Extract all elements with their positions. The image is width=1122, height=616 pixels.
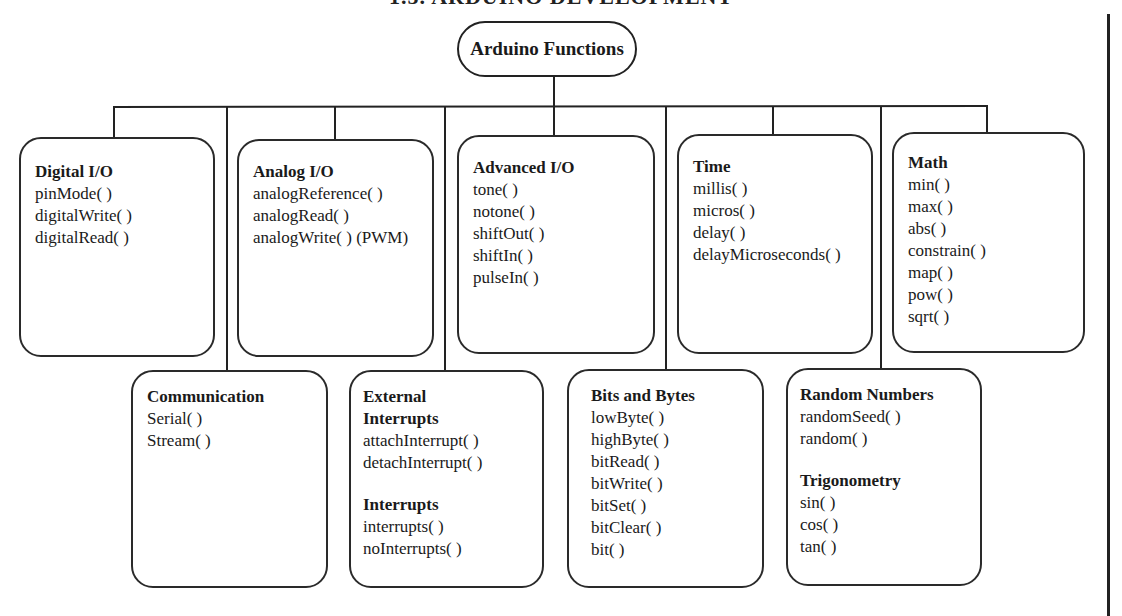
function-item: Serial( ) xyxy=(147,408,326,430)
group-external-interrupts: External Interrupts attachInterrupt( ) d… xyxy=(349,370,544,588)
function-item: tan( ) xyxy=(800,536,980,558)
function-item: detachInterrupt( ) xyxy=(363,452,542,474)
group-title: Bits and Bytes xyxy=(591,385,762,407)
function-item: Stream( ) xyxy=(147,430,326,452)
section-gap xyxy=(800,450,980,470)
function-item: interrupts( ) xyxy=(363,516,542,538)
group-time: Time millis( ) micros( ) delay( ) delayM… xyxy=(677,134,873,354)
function-item: shiftOut( ) xyxy=(473,223,653,245)
function-item: analogReference( ) xyxy=(253,183,432,205)
function-item: min( ) xyxy=(908,174,1083,196)
function-item: digitalWrite( ) xyxy=(35,205,213,227)
section-gap xyxy=(363,474,542,494)
group-title: Math xyxy=(908,152,1083,174)
function-item: millis( ) xyxy=(693,178,871,200)
function-item: sin( ) xyxy=(800,492,980,514)
group-title: Time xyxy=(693,156,871,178)
subgroup-title: Interrupts xyxy=(363,494,542,516)
group-analog-io: Analog I/O analogReference( ) analogRead… xyxy=(237,139,434,357)
function-item: max( ) xyxy=(908,196,1083,218)
group-bits-and-bytes: Bits and Bytes lowByte( ) highByte( ) bi… xyxy=(567,369,764,588)
function-item: shiftIn( ) xyxy=(473,245,653,267)
function-item: abs( ) xyxy=(908,218,1083,240)
function-item: bit( ) xyxy=(591,539,762,561)
function-item: lowByte( ) xyxy=(591,407,762,429)
function-item: highByte( ) xyxy=(591,429,762,451)
function-item: digitalRead( ) xyxy=(35,227,213,249)
function-item: notone( ) xyxy=(473,201,653,223)
function-item: sqrt( ) xyxy=(908,306,1083,328)
function-item: pulseIn( ) xyxy=(473,267,653,289)
group-math: Math min( ) max( ) abs( ) constrain( ) m… xyxy=(892,132,1085,353)
function-item: random( ) xyxy=(800,428,980,450)
function-item: attachInterrupt( ) xyxy=(363,430,542,452)
function-item: map( ) xyxy=(908,262,1083,284)
group-advanced-io: Advanced I/O tone( ) notone( ) shiftOut(… xyxy=(457,135,655,354)
function-item: noInterrupts( ) xyxy=(363,538,542,560)
function-item: micros( ) xyxy=(693,200,871,222)
function-item: bitSet( ) xyxy=(591,495,762,517)
function-item: analogRead( ) xyxy=(253,205,432,227)
function-item: constrain( ) xyxy=(908,240,1083,262)
root-node-arduino-functions: Arduino Functions xyxy=(457,21,637,77)
function-item: delayMicroseconds( ) xyxy=(693,244,871,266)
function-item: randomSeed( ) xyxy=(800,406,980,428)
group-communication: Communication Serial( ) Stream( ) xyxy=(131,370,328,588)
main-bus-line xyxy=(113,106,988,107)
group-title: Advanced I/O xyxy=(473,157,653,179)
function-item: bitRead( ) xyxy=(591,451,762,473)
group-digital-io: Digital I/O pinMode( ) digitalWrite( ) d… xyxy=(19,137,215,357)
function-item: cos( ) xyxy=(800,514,980,536)
function-item: bitWrite( ) xyxy=(591,473,762,495)
group-title-line1: External xyxy=(363,386,542,408)
function-item: analogWrite( ) (PWM) xyxy=(253,227,432,249)
function-item: tone( ) xyxy=(473,179,653,201)
group-title: Communication xyxy=(147,386,326,408)
function-item: pinMode( ) xyxy=(35,183,213,205)
root-label: Arduino Functions xyxy=(470,38,624,60)
function-item: delay( ) xyxy=(693,222,871,244)
group-title: Digital I/O xyxy=(35,161,213,183)
group-title-line2: Interrupts xyxy=(363,408,542,430)
function-item: bitClear( ) xyxy=(591,517,762,539)
group-random-numbers: Random Numbers randomSeed( ) random( ) T… xyxy=(786,368,982,586)
group-title: Random Numbers xyxy=(800,384,980,406)
group-title: Analog I/O xyxy=(253,161,432,183)
subgroup-title: Trigonometry xyxy=(800,470,980,492)
function-item: pow( ) xyxy=(908,284,1083,306)
